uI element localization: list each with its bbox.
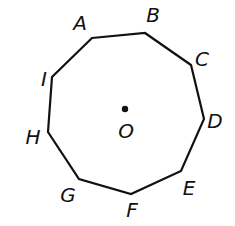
vertex-label-b: B: [146, 3, 160, 27]
vertex-label-h: H: [25, 125, 40, 149]
vertex-label-f: F: [126, 198, 138, 222]
center-point: [122, 106, 128, 112]
vertex-label-a: A: [71, 11, 87, 35]
vertex-label-c: C: [195, 47, 209, 71]
vertex-label-e: E: [183, 176, 196, 200]
nonagon-diagram: A B C D E F G H I O: [0, 0, 235, 226]
vertex-label-d: D: [207, 109, 222, 133]
vertex-label-g: G: [60, 183, 76, 207]
center-label-o: O: [118, 119, 134, 143]
vertex-label-i: I: [41, 67, 47, 91]
nonagon-outline: [48, 33, 204, 194]
